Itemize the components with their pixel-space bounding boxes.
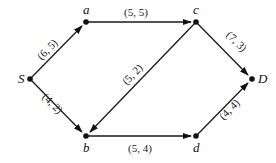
node-S [27, 76, 33, 82]
node-label-a: a [83, 2, 90, 17]
node-a [83, 19, 89, 25]
edge-label-S-b: (4, 2) [39, 91, 65, 117]
node-label-d: d [193, 140, 200, 155]
node-b [83, 133, 89, 139]
flow-network-diagram: (6, 5) (5, 5) (7, 3) (4, 2) (5, 2) (5, 4… [0, 0, 276, 163]
node-label-b: b [83, 140, 90, 155]
node-c [193, 19, 199, 25]
node-label-D: D [257, 71, 268, 86]
edge-label-c-D: (7, 3) [223, 29, 249, 55]
edge-label-b-d: (5, 4) [128, 142, 152, 155]
edge-label-a-c: (5, 5) [124, 6, 148, 19]
node-label-c: c [193, 2, 199, 17]
node-label-S: S [18, 71, 25, 86]
node-D [249, 76, 255, 82]
edge-c-b [90, 22, 196, 132]
edge-label-c-b: (5, 2) [120, 61, 146, 87]
edge-label-d-D: (4, 4) [217, 96, 243, 122]
edge-label-S-a: (6, 5) [35, 36, 61, 62]
node-d [193, 133, 199, 139]
